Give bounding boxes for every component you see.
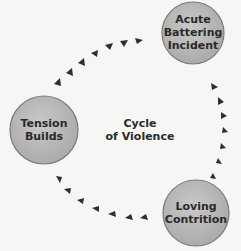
node-label-loving: Loving Contrition bbox=[156, 200, 236, 226]
label-line: Tension bbox=[9, 117, 79, 130]
node-label-tension: Tension Builds bbox=[9, 117, 79, 143]
label-line: Contrition bbox=[156, 213, 236, 226]
arrows-loving-to-tension bbox=[56, 176, 148, 220]
label-line: Acute bbox=[158, 13, 228, 26]
node-label-acute: Acute Battering Incident bbox=[158, 13, 228, 52]
title-line: of Violence bbox=[95, 130, 185, 143]
diagram-title: Cycle of Violence bbox=[95, 117, 185, 143]
title-line: Cycle bbox=[95, 117, 185, 130]
label-line: Loving bbox=[156, 200, 236, 213]
label-line: Incident bbox=[158, 39, 228, 52]
label-line: Builds bbox=[9, 130, 79, 143]
arrows-tension-to-acute bbox=[54, 38, 143, 86]
arrows-acute-to-loving bbox=[210, 83, 228, 179]
label-line: Battering bbox=[158, 26, 228, 39]
